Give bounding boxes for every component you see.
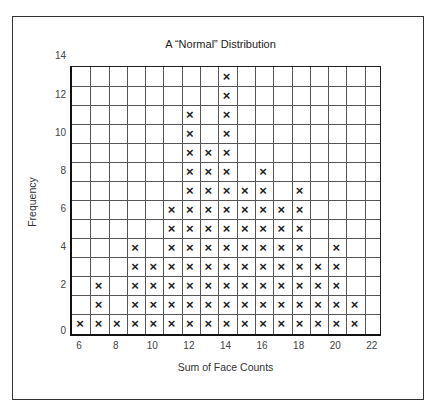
data-point-x-mark: × <box>181 182 199 200</box>
data-point-x-mark: × <box>126 277 144 295</box>
data-point-x-mark: × <box>327 258 345 276</box>
data-point-x-mark: × <box>236 220 254 238</box>
data-point-x-mark: × <box>199 296 217 314</box>
data-point-x-mark: × <box>217 239 235 257</box>
data-point-x-mark: × <box>181 315 199 333</box>
data-point-x-mark: × <box>217 87 235 105</box>
data-point-x-mark: × <box>217 125 235 143</box>
data-point-x-mark: × <box>199 163 217 181</box>
data-point-x-mark: × <box>162 220 180 238</box>
data-point-x-mark: × <box>254 220 272 238</box>
data-point-x-mark: × <box>89 277 107 295</box>
data-point-x-mark: × <box>108 315 126 333</box>
data-point-x-mark: × <box>217 315 235 333</box>
data-point-x-mark: × <box>291 277 309 295</box>
data-point-x-mark: × <box>217 163 235 181</box>
data-point-x-mark: × <box>217 296 235 314</box>
data-point-x-mark: × <box>144 258 162 276</box>
data-point-x-mark: × <box>254 315 272 333</box>
data-point-x-mark: × <box>309 258 327 276</box>
data-point-x-mark: × <box>181 220 199 238</box>
data-point-x-mark: × <box>181 144 199 162</box>
data-point-x-mark: × <box>181 239 199 257</box>
data-point-x-mark: × <box>199 315 217 333</box>
data-point-x-mark: × <box>199 182 217 200</box>
data-point-x-mark: × <box>345 315 363 333</box>
data-point-x-mark: × <box>199 277 217 295</box>
data-point-x-mark: × <box>309 277 327 295</box>
data-point-x-mark: × <box>144 277 162 295</box>
x-tick-label: 6 <box>67 340 91 351</box>
data-point-x-mark: × <box>217 182 235 200</box>
y-tick-label: 0 <box>46 325 66 336</box>
y-tick-label: 6 <box>46 203 66 214</box>
data-point-x-mark: × <box>217 220 235 238</box>
x-tick-label: 10 <box>140 340 164 351</box>
data-point-x-mark: × <box>162 201 180 219</box>
plot-grid: ××××××××××××××××××××××××××××××××××××××××… <box>70 66 381 336</box>
data-point-x-mark: × <box>217 144 235 162</box>
data-point-x-mark: × <box>272 296 290 314</box>
data-point-x-mark: × <box>272 315 290 333</box>
data-point-x-mark: × <box>217 258 235 276</box>
data-point-x-mark: × <box>199 201 217 219</box>
data-point-x-mark: × <box>162 239 180 257</box>
data-point-x-mark: × <box>254 201 272 219</box>
data-point-x-mark: × <box>126 258 144 276</box>
data-point-x-mark: × <box>327 296 345 314</box>
data-point-x-mark: × <box>236 201 254 219</box>
data-point-x-mark: × <box>272 201 290 219</box>
data-point-x-mark: × <box>309 315 327 333</box>
data-point-x-mark: × <box>199 258 217 276</box>
data-point-x-mark: × <box>89 296 107 314</box>
data-point-x-mark: × <box>217 201 235 219</box>
data-point-x-mark: × <box>181 258 199 276</box>
data-point-x-mark: × <box>291 296 309 314</box>
data-point-x-mark: × <box>71 315 89 333</box>
x-axis-label: Sum of Face Counts <box>0 361 441 373</box>
data-point-x-mark: × <box>291 258 309 276</box>
x-tick-label: 22 <box>360 340 384 351</box>
chart-title: A “Normal” Distribution <box>0 38 441 50</box>
data-point-x-mark: × <box>126 315 144 333</box>
data-point-x-mark: × <box>199 239 217 257</box>
y-tick-label: 14 <box>46 50 66 61</box>
data-point-x-mark: × <box>162 258 180 276</box>
data-point-x-mark: × <box>345 296 363 314</box>
data-point-x-mark: × <box>291 201 309 219</box>
data-point-x-mark: × <box>162 315 180 333</box>
data-point-x-mark: × <box>254 239 272 257</box>
y-tick-label: 8 <box>46 165 66 176</box>
data-point-x-mark: × <box>236 296 254 314</box>
x-tick-label: 8 <box>104 340 128 351</box>
data-point-x-mark: × <box>236 239 254 257</box>
data-point-x-mark: × <box>217 68 235 86</box>
data-point-x-mark: × <box>217 106 235 124</box>
data-point-x-mark: × <box>272 258 290 276</box>
data-point-x-mark: × <box>327 315 345 333</box>
data-point-x-mark: × <box>199 220 217 238</box>
data-point-x-mark: × <box>144 315 162 333</box>
data-point-x-mark: × <box>162 277 180 295</box>
x-tick-label: 16 <box>250 340 274 351</box>
data-point-x-mark: × <box>217 277 235 295</box>
y-tick-label: 12 <box>46 89 66 100</box>
data-point-x-mark: × <box>254 258 272 276</box>
data-point-x-mark: × <box>181 125 199 143</box>
data-point-x-mark: × <box>291 220 309 238</box>
data-point-x-mark: × <box>199 144 217 162</box>
data-point-x-mark: × <box>254 296 272 314</box>
data-point-x-mark: × <box>126 239 144 257</box>
data-point-x-mark: × <box>291 182 309 200</box>
data-point-x-mark: × <box>126 296 144 314</box>
y-tick-label: 2 <box>46 279 66 290</box>
x-tick-label: 14 <box>214 340 238 351</box>
data-point-x-mark: × <box>181 201 199 219</box>
y-axis-label: Frequency <box>26 162 38 242</box>
x-tick-label: 12 <box>177 340 201 351</box>
data-point-x-mark: × <box>272 239 290 257</box>
data-point-x-mark: × <box>181 163 199 181</box>
data-point-x-mark: × <box>254 277 272 295</box>
data-point-x-mark: × <box>236 277 254 295</box>
data-point-x-mark: × <box>291 239 309 257</box>
